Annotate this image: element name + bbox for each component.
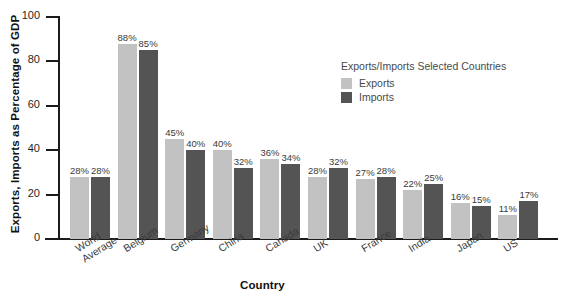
plot-area: 28%28%88%85%45%40%40%32%36%34%28%32%27%2… (58, 17, 558, 239)
bar-exports[interactable] (308, 177, 327, 239)
bar-value-label: 28% (308, 165, 327, 176)
y-axis-tick-label: 80 (8, 53, 40, 65)
bar-exports[interactable] (356, 179, 375, 239)
bar-imports[interactable] (519, 201, 538, 239)
bar-imports[interactable] (329, 168, 348, 239)
legend-item-imports[interactable]: Imports (341, 91, 556, 103)
bar-group: 22%25% (403, 17, 443, 239)
bar-value-label: 15% (472, 194, 491, 205)
bar-exports[interactable] (451, 203, 470, 239)
bar-value-label: 27% (356, 167, 375, 178)
bar-value-label: 17% (519, 189, 538, 200)
y-axis-tick-label: 100 (8, 9, 40, 21)
bar-group: 28%28% (70, 17, 110, 239)
bar-exports[interactable] (70, 177, 89, 239)
bar-value-label: 25% (424, 172, 443, 183)
legend-swatch-exports (341, 78, 352, 89)
bar-value-label: 28% (91, 165, 110, 176)
bar-imports[interactable] (424, 184, 443, 240)
bar-group: 28%32% (308, 17, 348, 239)
bar-value-label: 36% (260, 147, 279, 158)
bar-exports[interactable] (403, 190, 422, 239)
bar-value-label: 28% (70, 165, 89, 176)
bar-exports[interactable] (213, 150, 232, 239)
y-axis-title: Exports, Imports as Percentage of GDP (4, 2, 26, 246)
x-axis-title: Country (240, 279, 285, 291)
bar-value-label: 16% (451, 191, 470, 202)
bar-value-label: 88% (118, 32, 137, 43)
legend: Exports/Imports Selected Countries Expor… (341, 60, 556, 105)
bar-exports[interactable] (498, 215, 517, 239)
bar-group: 16%15% (451, 17, 491, 239)
bar-exports[interactable] (260, 159, 279, 239)
bar-exports[interactable] (165, 139, 184, 239)
y-axis-tick-label: 60 (8, 98, 40, 110)
bar-value-label: 32% (234, 156, 253, 167)
bar-group: 88%85% (118, 17, 158, 239)
bar-value-label: 85% (139, 38, 158, 49)
bar-imports[interactable] (139, 50, 158, 239)
bar-group: 11%17% (498, 17, 538, 239)
bar-value-label: 11% (499, 203, 517, 214)
bar-value-label: 34% (281, 152, 300, 163)
legend-swatch-imports (341, 92, 352, 103)
bar-value-label: 22% (403, 178, 422, 189)
bar-value-label: 40% (213, 138, 232, 149)
y-axis-tick-label: 20 (8, 187, 40, 199)
bar-chart: Exports, Imports as Percentage of GDP 02… (0, 0, 566, 304)
bar-value-label: 45% (165, 127, 184, 138)
bar-value-label: 40% (186, 138, 205, 149)
y-axis-tick-label: 0 (8, 231, 40, 243)
bar-value-label: 28% (377, 165, 396, 176)
bar-value-label: 32% (329, 156, 348, 167)
legend-label-imports: Imports (359, 91, 394, 103)
bar-exports[interactable] (118, 44, 137, 239)
bar-group: 45%40% (165, 17, 205, 239)
legend-title: Exports/Imports Selected Countries (341, 60, 556, 72)
bar-group: 36%34% (260, 17, 300, 239)
bar-group: 27%28% (356, 17, 396, 239)
legend-item-exports[interactable]: Exports (341, 77, 556, 89)
y-axis-tick-label: 40 (8, 142, 40, 154)
legend-label-exports: Exports (359, 77, 395, 89)
bar-imports[interactable] (234, 168, 253, 239)
bar-group: 40%32% (213, 17, 253, 239)
